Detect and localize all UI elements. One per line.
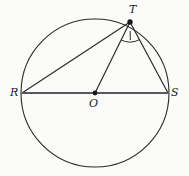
geometry-canvas <box>0 0 189 176</box>
geometry-figure: T R O S <box>0 0 189 176</box>
vertex-label-t: T <box>129 4 136 15</box>
vertex-dot-t <box>127 19 132 24</box>
chord-RT <box>22 22 130 93</box>
chord-TS <box>130 22 168 93</box>
radius-OT <box>95 22 130 93</box>
vertex-dot-o <box>93 91 98 96</box>
vertex-label-r: R <box>10 87 18 98</box>
vertex-label-s: S <box>171 87 179 98</box>
vertex-label-o: O <box>89 98 98 109</box>
